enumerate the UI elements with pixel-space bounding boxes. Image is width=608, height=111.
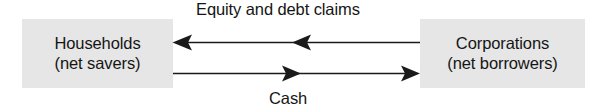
flow-label-cash: Cash [269,89,307,108]
arrow-equity-debt-claims [173,35,421,51]
flow-diagram: Equity and debt claims Households (net s… [0,0,608,111]
arrow-cash [173,66,420,82]
